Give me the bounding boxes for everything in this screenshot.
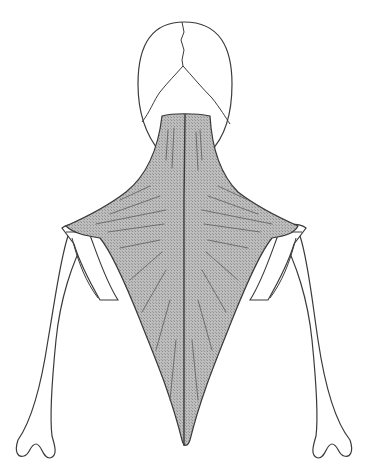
anatomy-figure: Trapezius muscle, posterior view: [0, 0, 369, 476]
right-humerus: [282, 236, 352, 458]
left-humerus: [16, 236, 86, 458]
